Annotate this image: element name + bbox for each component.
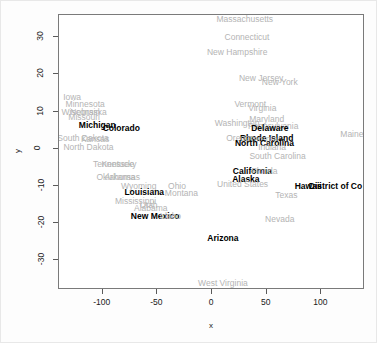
y-axis-title: y <box>13 149 22 153</box>
y-tick-label: 0 <box>32 145 42 150</box>
y-tick-mark <box>53 73 58 74</box>
data-label: United States <box>217 180 268 189</box>
data-label: Indiana <box>258 143 286 152</box>
y-tick-mark <box>53 111 58 112</box>
y-tick-mark <box>53 148 58 149</box>
x-tick-mark <box>211 289 212 294</box>
data-label: Connecticut <box>225 33 270 42</box>
y-tick-mark <box>53 259 58 260</box>
data-label: Montana <box>165 189 198 198</box>
data-label: District of Co <box>309 182 362 191</box>
data-label: Arkansas <box>105 172 140 181</box>
data-label: Delaware <box>251 124 288 133</box>
x-tick-label: -100 <box>93 297 110 307</box>
y-tick-label: 20 <box>35 69 45 78</box>
data-label: South Carolina <box>249 152 305 161</box>
x-tick-mark <box>102 289 103 294</box>
data-label: Idaho <box>160 211 181 220</box>
scatter-plot-area: MassachusettsConnecticutNew HampshireNew… <box>58 14 364 289</box>
y-tick-label: -10 <box>36 179 46 191</box>
y-tick-label: -30 <box>36 253 46 265</box>
data-label: West Virginia <box>198 278 248 287</box>
data-label: Kentucky <box>102 159 137 168</box>
chart-card: MassachusettsConnecticutNew HampshireNew… <box>0 0 377 343</box>
y-tick-label: 30 <box>35 32 45 41</box>
x-tick-label: 50 <box>261 297 270 307</box>
data-label: New Hampshire <box>207 48 267 57</box>
data-label: Massachusetts <box>216 14 273 23</box>
x-axis-title: x <box>209 321 213 330</box>
data-label: Maine <box>340 130 363 139</box>
data-label: Virginia <box>248 104 276 113</box>
data-label: Nevada <box>265 215 294 224</box>
data-label: Arizona <box>207 234 238 243</box>
x-tick-mark <box>320 289 321 294</box>
y-tick-mark <box>53 36 58 37</box>
data-label: New York <box>262 78 298 87</box>
y-tick-mark <box>53 185 58 186</box>
y-tick-mark <box>53 222 58 223</box>
y-tick-label: 10 <box>35 106 45 115</box>
data-label: Texas <box>275 191 297 200</box>
y-tick-label: -20 <box>36 216 46 228</box>
x-tick-label: 100 <box>313 297 327 307</box>
x-tick-label: 0 <box>209 297 214 307</box>
data-label: Colorado <box>103 124 140 133</box>
x-tick-mark <box>266 289 267 294</box>
data-label: North Dakota <box>63 143 113 152</box>
x-tick-label: -50 <box>150 297 162 307</box>
x-tick-mark <box>156 289 157 294</box>
data-label: Louisiana <box>124 187 164 196</box>
